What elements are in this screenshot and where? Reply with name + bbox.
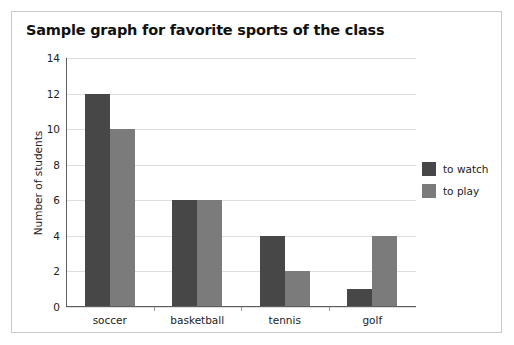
x-tick-label-soccer: soccer [93, 314, 127, 326]
y-axis-line [66, 58, 67, 307]
y-tick-label: 12 [47, 88, 60, 100]
legend-label: to play [443, 185, 479, 197]
y-tick-label: 8 [53, 159, 60, 171]
x-tick-mark [329, 307, 330, 311]
y-tick-label: 14 [47, 52, 60, 64]
x-tick-label-basketball: basketball [170, 314, 224, 326]
bar-basketball-to-watch [172, 200, 197, 306]
x-tick-label-golf: golf [362, 314, 382, 326]
y-axis-title: Number of students [31, 58, 45, 307]
y-tick-label: 2 [53, 265, 60, 277]
legend-item-to-watch[interactable]: to watch [422, 158, 488, 180]
bar-tennis-to-play [285, 271, 310, 306]
bar-golf-to-play [372, 236, 397, 306]
gridline [66, 58, 416, 59]
chart-title: Sample graph for favorite sports of the … [26, 22, 384, 38]
x-tick-mark [154, 307, 155, 311]
bar-tennis-to-watch [260, 236, 285, 306]
y-tick-label: 10 [47, 123, 60, 135]
y-axis-title-label: Number of students [32, 130, 44, 235]
legend-item-to-play[interactable]: to play [422, 180, 488, 202]
legend-swatch-to-play [422, 184, 436, 198]
y-tick-label: 6 [53, 194, 60, 206]
gridline [66, 94, 416, 95]
bar-golf-to-watch [347, 289, 372, 306]
legend-swatch-to-watch [422, 162, 436, 176]
y-tick-label: 0 [53, 301, 60, 313]
y-tick-label: 4 [53, 230, 60, 242]
x-axis-line [66, 306, 416, 307]
x-tick-mark [241, 307, 242, 311]
x-tick-label-tennis: tennis [269, 314, 301, 326]
plot-area: 02468101214 soccerbasketballtennisgolf [66, 58, 416, 307]
bar-basketball-to-play [197, 200, 222, 306]
bar-soccer-to-watch [85, 94, 110, 306]
bar-soccer-to-play [110, 129, 135, 306]
legend-label: to watch [443, 163, 488, 175]
chart-legend: to watchto play [422, 158, 488, 202]
chart-figure: Sample graph for favorite sports of the … [11, 11, 502, 333]
